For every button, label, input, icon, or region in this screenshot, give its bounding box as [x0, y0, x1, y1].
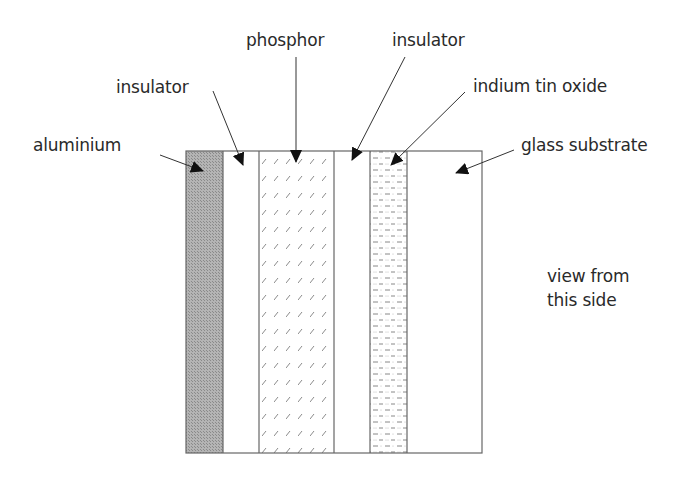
layer-aluminium: [186, 151, 223, 453]
label-indium-tin-oxide: indium tin oxide: [473, 76, 607, 96]
el-device-cross-section: [0, 0, 696, 485]
layer-glass-substrate: [407, 151, 482, 453]
label-glass-substrate: glass substrate: [521, 135, 648, 155]
label-aluminium: aluminium: [33, 135, 121, 155]
label-view-direction-line2: this side: [547, 290, 616, 310]
label-insulator-right: insulator: [392, 30, 465, 50]
label-view-direction-line1: view from: [547, 266, 629, 286]
label-phosphor: phosphor: [246, 30, 324, 50]
arrow-insulator-right: [352, 57, 405, 160]
layer-insulator-right: [334, 151, 370, 453]
layer-indium-tin-oxide: [370, 151, 407, 453]
layer-insulator-left: [223, 151, 259, 453]
label-insulator-left: insulator: [116, 77, 189, 97]
layer-phosphor: [259, 151, 334, 453]
